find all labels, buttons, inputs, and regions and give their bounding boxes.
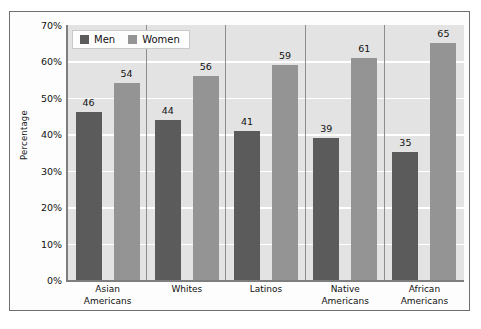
bar-series-container: 46 54 44 56 41 — [68, 25, 464, 280]
x-category-line: Americans — [306, 296, 385, 308]
bar-column-women[interactable]: 59 — [272, 25, 298, 280]
bar-column-men[interactable]: 41 — [234, 25, 260, 280]
x-category-line: Latinos — [226, 284, 305, 296]
legend-label: Men — [94, 34, 115, 45]
bar-column-men[interactable]: 35 — [392, 25, 418, 280]
chart-legend: Men Women — [72, 30, 190, 49]
bar-value-label: 61 — [358, 43, 370, 54]
x-category-line: Americans — [385, 296, 464, 308]
y-tick-label: 70% — [26, 20, 62, 31]
bar-group: 44 56 — [147, 25, 226, 280]
bar-value-label: 35 — [399, 137, 411, 148]
plot-area: 46 54 44 56 41 — [66, 25, 464, 282]
bar-value-label: 54 — [121, 68, 133, 79]
bar-men[interactable] — [234, 131, 260, 280]
legend-item-women[interactable]: Women — [128, 34, 180, 45]
x-category-label: Latinos — [226, 284, 305, 307]
bar-men[interactable] — [392, 152, 418, 280]
x-category-label: Native Americans — [306, 284, 385, 307]
bar-value-label: 59 — [279, 50, 291, 61]
bar-column-men[interactable]: 44 — [155, 25, 181, 280]
men-swatch-icon — [80, 35, 89, 44]
bar-women[interactable] — [114, 83, 140, 280]
bar-column-men[interactable]: 39 — [313, 25, 339, 280]
bar-column-women[interactable]: 56 — [193, 25, 219, 280]
x-category-line: African — [385, 284, 464, 296]
bar-value-label: 65 — [437, 28, 449, 39]
y-tick-label: 60% — [26, 56, 62, 67]
bar-women[interactable] — [430, 43, 456, 280]
bar-group: 46 54 — [68, 25, 147, 280]
x-category-line: Native — [306, 284, 385, 296]
bar-men[interactable] — [155, 120, 181, 280]
chart-figure: Percentage 70% 60% 50% 40% 30% 20% 10% 0… — [9, 11, 470, 311]
bar-women[interactable] — [272, 65, 298, 280]
bar-value-label: 56 — [200, 61, 212, 72]
x-category-label: African Americans — [385, 284, 464, 307]
x-category-line: Americans — [68, 296, 147, 308]
bar-column-women[interactable]: 61 — [351, 25, 377, 280]
bar-value-label: 39 — [320, 123, 332, 134]
bar-column-men[interactable]: 46 — [76, 25, 102, 280]
x-axis-category-labels: Asian Americans Whites Latinos Native Am… — [68, 284, 464, 307]
bar-value-label: 41 — [241, 116, 253, 127]
bar-women[interactable] — [351, 58, 377, 280]
bar-group: 39 61 — [306, 25, 385, 280]
bar-value-label: 46 — [83, 97, 95, 108]
y-tick-label: 10% — [26, 238, 62, 249]
y-tick-label: 50% — [26, 92, 62, 103]
women-swatch-icon — [128, 35, 137, 44]
bar-men[interactable] — [76, 112, 102, 280]
bar-men[interactable] — [313, 138, 339, 280]
bar-women[interactable] — [193, 76, 219, 280]
bar-group: 35 65 — [385, 25, 464, 280]
x-category-line: Whites — [147, 284, 226, 296]
x-category-label: Asian Americans — [68, 284, 147, 307]
y-tick-label: 30% — [26, 165, 62, 176]
y-tick-label: 0% — [26, 275, 62, 286]
legend-item-men[interactable]: Men — [80, 34, 115, 45]
x-category-line: Asian — [68, 284, 147, 296]
bar-column-women[interactable]: 54 — [114, 25, 140, 280]
y-axis-tick-labels: 70% 60% 50% 40% 30% 20% 10% 0% — [26, 12, 62, 312]
bar-group: 41 59 — [226, 25, 305, 280]
bar-value-label: 44 — [162, 105, 174, 116]
x-category-label: Whites — [147, 284, 226, 307]
bar-column-women[interactable]: 65 — [430, 25, 456, 280]
legend-label: Women — [142, 34, 180, 45]
y-tick-label: 40% — [26, 129, 62, 140]
y-tick-label: 20% — [26, 202, 62, 213]
